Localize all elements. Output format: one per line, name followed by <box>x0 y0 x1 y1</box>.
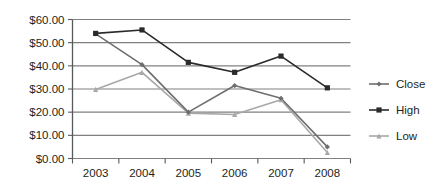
data-point-high-2004 <box>139 27 144 32</box>
y-axis-tick-label: $60.00 <box>29 14 64 26</box>
data-point-high-2006 <box>232 70 237 75</box>
y-axis-tick-label: $50.00 <box>29 37 64 49</box>
data-point-high-2007 <box>278 54 283 59</box>
chart-canvas: $60.00$50.00$40.00$30.00$20.00$10.00$0.0… <box>0 0 441 193</box>
x-axis-tick-label: 2006 <box>222 167 248 179</box>
data-point-high-2005 <box>186 60 191 65</box>
series-line-close <box>96 34 328 147</box>
x-axis-tick-label: 2004 <box>129 167 155 179</box>
legend-label: Close <box>396 78 425 90</box>
legend-item-close[interactable]: Close <box>369 78 425 90</box>
legend-label: High <box>396 104 420 116</box>
line-chart: $60.00$50.00$40.00$30.00$20.00$10.00$0.0… <box>0 0 441 193</box>
series-markers-group <box>93 27 330 155</box>
legend-key-marker <box>376 81 381 86</box>
y-axis-tick-label: $20.00 <box>29 106 64 118</box>
y-axis-tick-label: $40.00 <box>29 60 64 72</box>
legend-item-high[interactable]: High <box>369 104 420 116</box>
series-lines-group <box>96 30 328 153</box>
x-axis-tick-label: 2008 <box>315 167 341 179</box>
y-axis-labels-group: $60.00$50.00$40.00$30.00$20.00$10.00$0.0… <box>29 14 64 165</box>
legend-item-low[interactable]: Low <box>369 130 418 142</box>
y-axis-tick-label: $30.00 <box>29 83 64 95</box>
series-line-high <box>96 30 328 88</box>
y-axis-tick-label: $0.00 <box>36 153 65 165</box>
gridlines-group <box>73 20 351 159</box>
x-axis-tick-label: 2007 <box>268 167 294 179</box>
data-point-high-2003 <box>93 31 98 36</box>
x-tick-marks-group <box>73 159 351 164</box>
data-point-high-2008 <box>325 85 330 90</box>
x-axis-tick-label: 2003 <box>83 167 109 179</box>
x-axis-labels-group: 200320042005200620072008 <box>83 167 340 179</box>
y-tick-marks-group <box>68 20 73 159</box>
x-axis-tick-label: 2005 <box>176 167 202 179</box>
legend-key-marker <box>376 107 381 112</box>
y-axis-tick-label: $10.00 <box>29 129 64 141</box>
chart-legend: CloseHighLow <box>369 78 425 142</box>
legend-label: Low <box>396 130 418 142</box>
